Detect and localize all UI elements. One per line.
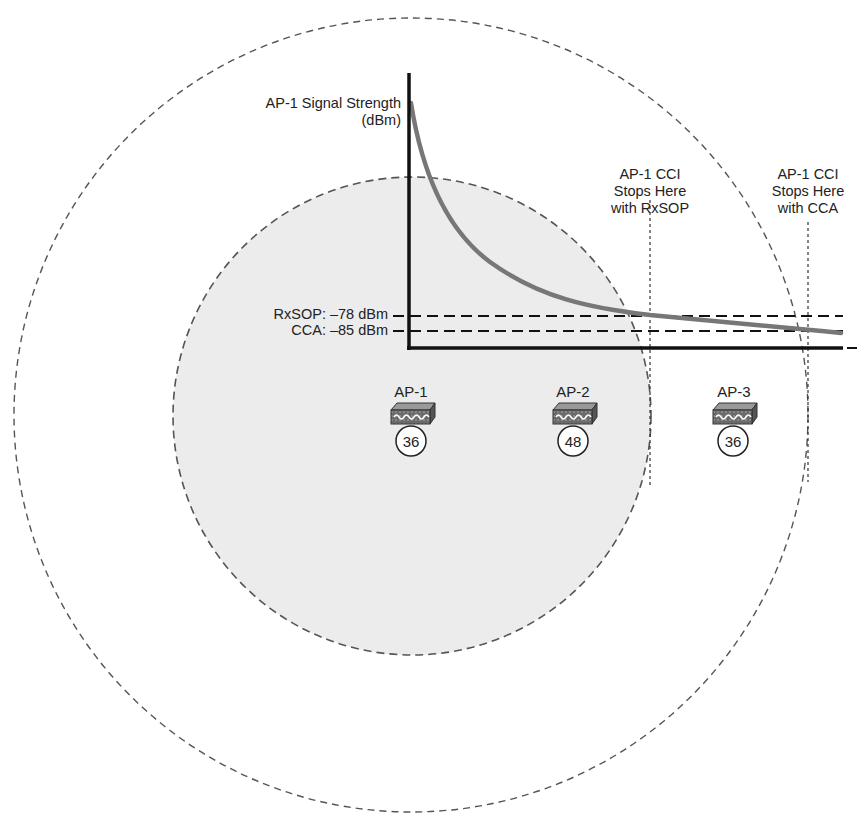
rxsop-stop-line3: with RxSOP — [600, 200, 700, 217]
ap-3-icon — [713, 403, 757, 424]
rxsop-stop-line2: Stops Here — [600, 183, 700, 200]
ap-2-channel-badge: 48 — [558, 426, 588, 456]
rxsop-threshold-label: RxSOP: –78 dBm — [200, 306, 388, 323]
ap-3-channel-badge: 36 — [718, 426, 748, 456]
y-axis-label: AP-1 Signal Strength (dBm) — [200, 95, 401, 129]
cca-stop-line1: AP-1 CCI — [760, 166, 856, 183]
ap-1-channel: 36 — [403, 433, 420, 450]
rxsop-stop-line1: AP-1 CCI — [600, 166, 700, 183]
ap-2-label: AP-2 — [543, 383, 603, 400]
y-axis-label-line1: AP-1 Signal Strength — [200, 95, 401, 112]
ap-1-label: AP-1 — [381, 383, 441, 400]
ap-1-channel-badge: 36 — [396, 426, 426, 456]
cca-stop-line3: with CCA — [760, 200, 856, 217]
ap-3-channel: 36 — [725, 433, 742, 450]
rxsop-stop-annotation: AP-1 CCI Stops Here with RxSOP — [600, 166, 700, 217]
cci-diagram: 36 48 36 — [0, 0, 866, 820]
ap-3-label: AP-3 — [704, 383, 764, 400]
cca-threshold-label: CCA: –85 dBm — [200, 322, 388, 339]
ap-1-icon — [391, 403, 435, 424]
ap-2-icon — [553, 403, 597, 424]
y-axis-label-line2: (dBm) — [200, 112, 401, 129]
ap-2-channel: 48 — [565, 433, 582, 450]
cca-stop-line2: Stops Here — [760, 183, 856, 200]
cca-stop-annotation: AP-1 CCI Stops Here with CCA — [760, 166, 856, 217]
